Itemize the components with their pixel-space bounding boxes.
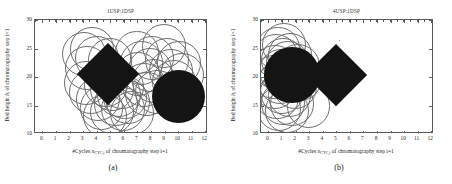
y-axis-tick-label: 25 bbox=[16, 45, 32, 51]
x-axis-minor-tick-top bbox=[390, 20, 391, 22]
y-axis-tick-label: 15 bbox=[242, 102, 258, 108]
x-axis-minor-tick bbox=[288, 132, 289, 133]
x-axis-minor-tick-top bbox=[103, 20, 104, 22]
x-axis-symbol-subscript: CYC,i bbox=[94, 151, 104, 155]
y-axis-tick-right bbox=[429, 20, 432, 21]
x-axis-minor-tick-top bbox=[295, 20, 296, 22]
x-axis-minor-tick bbox=[184, 132, 185, 133]
x-axis-minor-tick-top bbox=[137, 20, 138, 22]
x-axis-minor-tick-top bbox=[268, 20, 269, 22]
panel-b-x-axis-label: #Cycles nCYC,i of chromatography step i=… bbox=[246, 148, 446, 154]
x-axis-minor-tick-top bbox=[42, 20, 43, 22]
x-axis-minor-tick-top bbox=[417, 20, 418, 22]
x-axis-minor-tick bbox=[329, 132, 330, 133]
panel-b-title: 4USP:1DSP bbox=[260, 8, 433, 14]
x-axis-minor-tick bbox=[103, 132, 104, 133]
x-axis-minor-tick bbox=[82, 132, 83, 133]
x-axis-minor-tick bbox=[171, 132, 172, 133]
x-axis-minor-tick bbox=[308, 132, 309, 133]
x-axis-minor-tick-top bbox=[89, 20, 90, 22]
x-axis-minor-tick-top bbox=[410, 20, 411, 22]
x-axis-minor-tick bbox=[424, 132, 425, 133]
x-axis-minor-tick bbox=[376, 132, 377, 133]
x-axis-minor-tick-top bbox=[177, 20, 178, 22]
x-axis-tick-label: 2 bbox=[67, 135, 70, 141]
y-axis-tick-label: 25 bbox=[242, 45, 258, 51]
y-axis-tick-label: 20 bbox=[242, 73, 258, 79]
x-axis-minor-tick bbox=[363, 132, 364, 133]
x-axis-tick-label: 11 bbox=[188, 135, 193, 141]
x-axis-minor-tick-top bbox=[383, 20, 384, 22]
x-axis-minor-tick bbox=[383, 132, 384, 133]
y-axis-symbol-subscript: i bbox=[7, 92, 11, 93]
x-axis-tick-label: 10 bbox=[174, 135, 179, 141]
x-axis-tick-label: 0 bbox=[266, 135, 269, 141]
x-axis-minor-tick-top bbox=[198, 20, 199, 22]
x-axis-minor-tick bbox=[205, 132, 206, 133]
x-axis-minor-tick-top bbox=[288, 20, 289, 22]
x-axis-tick-label: 3 bbox=[307, 135, 310, 141]
x-axis-minor-tick-top bbox=[349, 20, 350, 22]
x-axis-minor-tick bbox=[157, 132, 158, 133]
y-axis-tick-label: 15 bbox=[16, 102, 32, 108]
y-axis-tick bbox=[35, 77, 38, 78]
x-axis-minor-tick bbox=[390, 132, 391, 133]
x-axis-minor-tick bbox=[302, 132, 303, 133]
y-axis-tick-label: 20 bbox=[16, 73, 32, 79]
x-axis-minor-tick bbox=[55, 132, 56, 133]
y-axis-label-suffix: of chromatography step i=1 bbox=[230, 28, 236, 91]
x-axis-minor-tick bbox=[336, 132, 337, 133]
x-axis-minor-tick bbox=[295, 132, 296, 133]
x-axis-minor-tick-top bbox=[62, 20, 63, 22]
x-axis-minor-tick bbox=[349, 132, 350, 133]
x-axis-minor-tick-top bbox=[110, 20, 111, 22]
x-axis-tick-label: 12 bbox=[428, 135, 433, 141]
x-axis-minor-tick-top bbox=[342, 20, 343, 22]
x-axis-minor-tick bbox=[144, 132, 145, 133]
x-axis-minor-tick bbox=[130, 132, 131, 133]
x-axis-minor-tick-top bbox=[356, 20, 357, 22]
x-axis-minor-tick bbox=[342, 132, 343, 133]
x-axis-minor-tick-top bbox=[150, 20, 151, 22]
panel-b-plot-area bbox=[260, 19, 433, 133]
x-axis-tick-label: 10 bbox=[400, 135, 405, 141]
x-axis-minor-tick-top bbox=[322, 20, 323, 22]
x-axis-minor-tick-top bbox=[376, 20, 377, 22]
x-axis-minor-tick-top bbox=[403, 20, 404, 22]
x-axis-minor-tick bbox=[177, 132, 178, 133]
y-axis-tick-label: 30 bbox=[242, 16, 258, 22]
x-axis-minor-tick bbox=[397, 132, 398, 133]
x-axis-tick-label: 4 bbox=[320, 135, 323, 141]
x-axis-label-prefix: #Cycles bbox=[72, 148, 91, 154]
x-axis-tick-label: 12 bbox=[202, 135, 207, 141]
x-axis-symbol-subscript: CYC,i bbox=[320, 151, 330, 155]
x-axis-tick-label: 9 bbox=[388, 135, 391, 141]
x-axis-minor-tick-top bbox=[302, 20, 303, 22]
x-axis-minor-tick bbox=[69, 132, 70, 133]
y-axis-symbol: h bbox=[230, 93, 236, 96]
x-axis-minor-tick-top bbox=[191, 20, 192, 22]
x-axis-minor-tick-top bbox=[69, 20, 70, 22]
x-axis-minor-tick-top bbox=[164, 20, 165, 22]
solution-bubble bbox=[110, 91, 154, 133]
x-axis-tick-label: 8 bbox=[375, 135, 378, 141]
x-axis-minor-tick bbox=[49, 132, 50, 133]
panel-b: 4USP:1DSP Bed height hi of chromatograph… bbox=[226, 0, 452, 184]
x-axis-minor-tick-top bbox=[370, 20, 371, 22]
x-axis-minor-tick bbox=[164, 132, 165, 133]
y-axis-tick bbox=[35, 20, 38, 21]
x-axis-minor-tick bbox=[281, 132, 282, 133]
x-axis-minor-tick bbox=[268, 132, 269, 133]
y-axis-symbol: h bbox=[4, 93, 10, 96]
x-axis-minor-tick bbox=[403, 132, 404, 133]
x-axis-minor-tick-top bbox=[130, 20, 131, 22]
y-axis-label-suffix: of chromatography step i=1 bbox=[4, 28, 10, 91]
x-axis-tick-label: 1 bbox=[54, 135, 57, 141]
y-axis-tick-label: 30 bbox=[16, 16, 32, 22]
x-axis-minor-tick-top bbox=[281, 20, 282, 22]
x-axis-tick-label: 5 bbox=[334, 135, 337, 141]
y-axis-tick-label: 10 bbox=[242, 130, 258, 136]
panel-a-title: 1USP:1DSP bbox=[34, 8, 207, 14]
x-axis-tick-label: 7 bbox=[361, 135, 364, 141]
y-axis-symbol-subscript: i bbox=[233, 92, 237, 93]
